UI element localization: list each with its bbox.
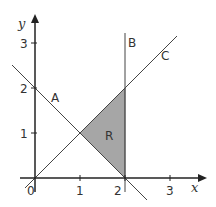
y-tick-label-3: 3: [20, 37, 28, 51]
region-r: [80, 88, 125, 178]
region-r-label: R: [105, 129, 113, 143]
y-tick-label-1: 1: [20, 127, 28, 141]
x-tick-label-2: 2: [114, 184, 122, 198]
x-tick-label-3: 3: [166, 184, 174, 198]
x-tick-label-1: 1: [76, 184, 84, 198]
y-tick-label-2: 2: [20, 82, 28, 96]
x-axis-arrow-icon: [198, 174, 207, 182]
origin-label: 0: [27, 184, 35, 198]
line-c-label: C: [161, 49, 169, 63]
line-c: [25, 36, 177, 188]
line-b-label: B: [128, 36, 136, 50]
coordinate-diagram: 1 2 3 1 2 3 0 x y A B C R: [0, 0, 216, 207]
x-axis-label: x: [191, 180, 199, 195]
y-axis-label: y: [17, 16, 26, 31]
line-a-label: A: [51, 91, 60, 105]
y-axis-arrow-icon: [31, 14, 39, 23]
